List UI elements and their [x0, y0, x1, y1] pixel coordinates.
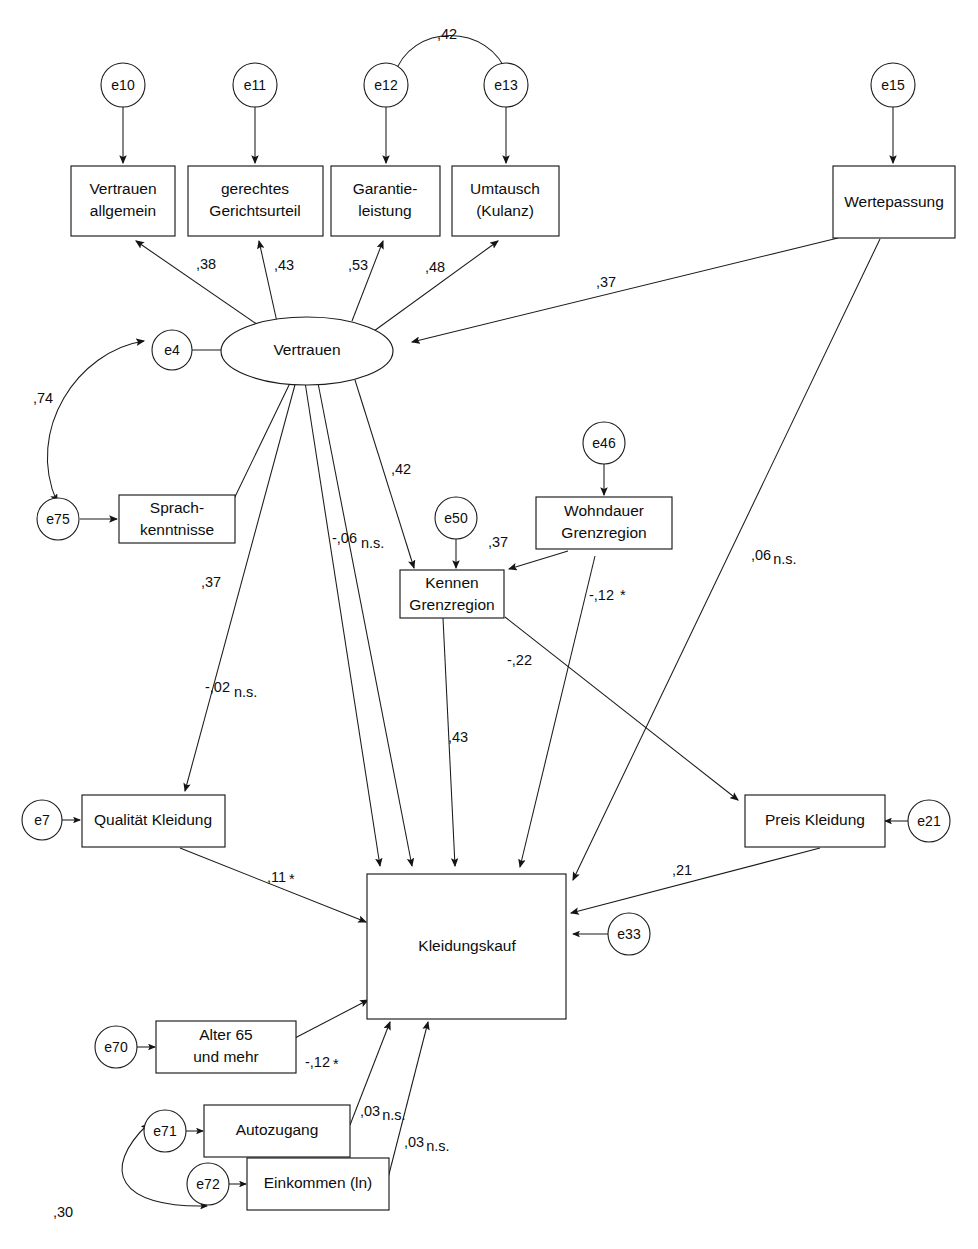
coef-preis-kleidungskauf: ,21	[672, 862, 692, 878]
label-alter65-1: Alter 65	[199, 1026, 252, 1043]
diagram-svg: Vertrauen allgemein gerechtes Gerichtsur…	[0, 0, 978, 1249]
coef-wertepassung-vertrauen: ,37	[596, 274, 616, 290]
edge-wohndauer-to-kleidungskauf	[520, 556, 595, 867]
label-umtausch-1: Umtausch	[470, 180, 540, 197]
coef-vertrauen-umtausch: ,48	[425, 259, 445, 275]
label-e4: e4	[164, 342, 180, 358]
label-sprachkenntnisse-2: kenntnisse	[140, 521, 214, 538]
label-garantie-1: Garantie-	[353, 180, 418, 197]
coef-wertepassung-kleidungskauf: ,06n.s.	[751, 547, 797, 567]
edge-vertrauen-to-vertrauen-allgemein	[136, 241, 261, 327]
coef-alter65-kleidungskauf: -,12*	[305, 1054, 339, 1072]
edge-wertepassung-to-kleidungskauf	[573, 239, 880, 880]
label-garantie-2: leistung	[358, 202, 411, 219]
label-e7: e7	[34, 812, 50, 828]
label-gerechtes-1: gerechtes	[221, 180, 289, 197]
edge-vertrauen-to-kleidungskauf-b	[305, 382, 380, 866]
coef-vertrauen-vertrauen-allgemein: ,38	[196, 256, 216, 272]
label-sprachkenntnisse-1: Sprach-	[150, 499, 204, 516]
label-e15: e15	[881, 77, 905, 93]
edge-alter65-to-kleidungskauf	[295, 1000, 368, 1038]
label-qualitaet-kleidung: Qualität Kleidung	[94, 811, 212, 828]
label-e50: e50	[444, 510, 468, 526]
label-e11: e11	[244, 77, 267, 93]
label-autozugang: Autozugang	[236, 1121, 319, 1138]
edge-e4-e75-correlation	[47, 341, 144, 502]
edge-kennen-to-preis-kleidung	[505, 617, 738, 800]
label-e10: e10	[111, 77, 135, 93]
coef-qualitaet-kleidungskauf: ,11*	[267, 869, 295, 887]
edge-vertrauen-to-sprachkenntnisse-stub	[232, 381, 291, 503]
coef-wohndauer-kennen: ,37	[488, 534, 508, 550]
label-einkommen-ln: Einkommen (ln)	[264, 1174, 373, 1191]
coef-vertrauen-gerechtes: ,43	[274, 257, 294, 273]
label-kennen-1: Kennen	[425, 574, 478, 591]
coef-vertrauen-garantie: ,53	[348, 257, 368, 273]
edge-vertrauen-to-umtausch	[374, 241, 498, 331]
label-wohndauer-1: Wohndauer	[564, 502, 644, 519]
label-e12: e12	[374, 77, 398, 93]
coef-e71-e72: ,30	[53, 1204, 73, 1220]
label-gerechtes-2: Gerichtsurteil	[209, 202, 300, 219]
edge-vertrauen-to-garantie	[352, 241, 383, 321]
coef-vertrauen-kennen: ,42	[391, 461, 411, 477]
label-e46: e46	[592, 435, 616, 451]
node-garantieleistung[interactable]	[331, 166, 440, 236]
edge-qualitaet-to-kleidungskauf	[180, 848, 366, 922]
label-umtausch-2: (Kulanz)	[476, 202, 534, 219]
label-e33: e33	[617, 926, 641, 942]
coef-wohndauer-kleidungskauf: -,12*	[589, 587, 626, 603]
label-e13: e13	[494, 77, 518, 93]
coef-vertrauen-sprachkenntnisse: ,37	[201, 574, 221, 590]
label-vertrauen-allgemein-1: Vertrauen	[89, 180, 156, 197]
edge-wohndauer-to-kennen-grenzregion	[509, 551, 568, 569]
coef-autozugang-kleidungskauf: ,03n.s.	[360, 1103, 406, 1123]
coef-e4-e75: ,74	[33, 390, 53, 406]
coef-vertrauen-kleidungskauf-a: -,06n.s.	[332, 530, 384, 551]
label-vertrauen: Vertrauen	[273, 341, 340, 358]
coef-vertrauen-kleidungskauf-b: -,02n.s.	[205, 679, 257, 700]
coef-e12-e13: ,42	[437, 26, 457, 42]
label-e75: e75	[46, 511, 70, 527]
edge-preis-to-kleidungskauf	[571, 848, 820, 913]
label-e70: e70	[104, 1039, 128, 1055]
node-gerechtes-gerichtsurteil[interactable]	[188, 166, 323, 236]
label-vertrauen-allgemein-2: allgemein	[90, 202, 156, 219]
coef-einkommen-kleidungskauf: ,03n.s.	[404, 1134, 450, 1154]
edge-wertepassung-to-vertrauen	[412, 238, 838, 342]
path-diagram-canvas: Vertrauen allgemein gerechtes Gerichtsur…	[0, 0, 978, 1249]
label-wohndauer-2: Grenzregion	[561, 524, 646, 541]
label-e72: e72	[196, 1176, 220, 1192]
label-kleidungskauf: Kleidungskauf	[418, 937, 516, 954]
coef-kennen-kleidungskauf: ,43	[448, 729, 468, 745]
edge-vertrauen-to-gerechtes	[259, 241, 277, 322]
label-e21: e21	[917, 813, 941, 829]
label-e71: e71	[153, 1123, 177, 1139]
label-kennen-2: Grenzregion	[409, 596, 494, 613]
coef-kennen-preis: -,22	[507, 652, 532, 668]
label-alter65-2: und mehr	[193, 1048, 258, 1065]
label-preis-kleidung: Preis Kleidung	[765, 811, 865, 828]
node-vertrauen-allgemein[interactable]	[71, 166, 175, 236]
label-wertepassung: Wertepassung	[844, 193, 944, 210]
node-umtausch-kulanz[interactable]	[452, 166, 559, 236]
edge-vertrauen-to-kleidungskauf-a	[318, 383, 412, 866]
edge-einkommen-to-kleidungskauf	[388, 1022, 428, 1178]
